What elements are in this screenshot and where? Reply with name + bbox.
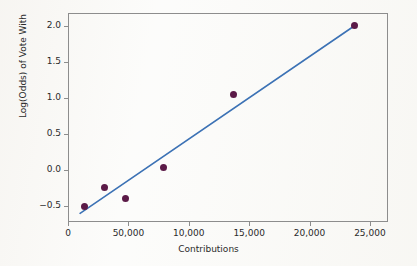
x-tick-mark [189,222,190,226]
x-tick-label: 0 [65,228,71,238]
x-axis-title: Contributions [0,244,417,254]
x-tick-mark [68,222,69,226]
x-tick-mark [310,222,311,226]
y-axis-title: Log(Odds) of Vote With [18,14,28,118]
scatter-plot-figure: 2.01.51.00.50.0−0.5 050,00010,00015,0002… [0,0,417,266]
x-axis-ticks: 050,00010,00015,00020,00025,000 [0,0,417,266]
x-tick-label: 25,000 [354,228,386,238]
x-tick-label: 50,000 [113,228,145,238]
x-tick-label: 15,000 [233,228,265,238]
x-tick-label: 20,000 [294,228,326,238]
x-tick-mark [128,222,129,226]
x-tick-label: 10,000 [173,228,205,238]
x-tick-mark [249,222,250,226]
x-tick-mark [370,222,371,226]
